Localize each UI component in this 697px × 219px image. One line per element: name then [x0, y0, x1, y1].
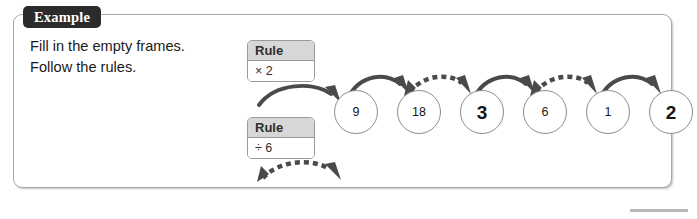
- chain-node-1[interactable]: 9: [334, 90, 378, 134]
- instruction-text: Fill in the empty frames. Follow the rul…: [30, 36, 245, 78]
- chain-node-5-value: 1: [605, 106, 612, 119]
- number-chain: 9 18 3 6 1 2: [334, 62, 664, 154]
- instruction-line-1: Fill in the empty frames.: [30, 36, 245, 57]
- instruction-line-2: Follow the rules.: [30, 57, 245, 78]
- chain-node-2-value: 18: [412, 106, 426, 119]
- rule-box-multiply-operation: × 2: [248, 61, 314, 81]
- rule-box-divide-header: Rule: [248, 118, 314, 138]
- footer-rule: [630, 209, 688, 212]
- rule-box-multiply-header: Rule: [248, 41, 314, 61]
- chain-node-6-value: 2: [666, 103, 677, 122]
- chain-node-4-value: 6: [542, 106, 549, 119]
- rule-arrow-dashed-icon: [255, 156, 347, 186]
- example-tab: Example: [23, 6, 101, 28]
- chain-node-3-value: 3: [477, 103, 488, 122]
- rule-box-multiply: Rule × 2: [247, 40, 315, 82]
- chain-node-4[interactable]: 6: [523, 90, 567, 134]
- rule-box-divide-operation: ÷ 6: [248, 138, 314, 158]
- chain-node-2[interactable]: 18: [397, 90, 441, 134]
- chain-node-1-value: 9: [353, 106, 360, 119]
- chain-node-5[interactable]: 1: [586, 90, 630, 134]
- example-tab-label: Example: [34, 9, 90, 26]
- rule-box-divide: Rule ÷ 6: [247, 117, 315, 159]
- chain-node-6[interactable]: 2: [649, 90, 693, 134]
- chain-node-3[interactable]: 3: [460, 90, 504, 134]
